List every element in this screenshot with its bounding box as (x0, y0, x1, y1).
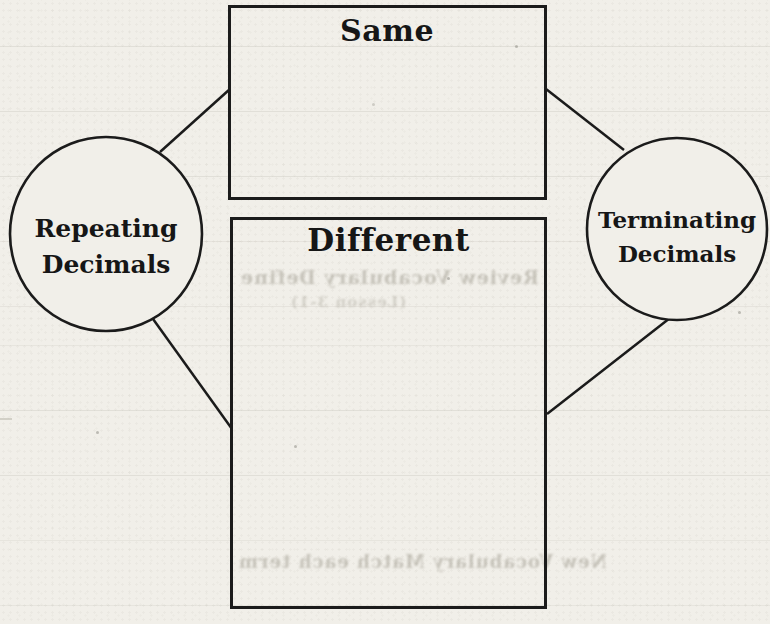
same-box-label: Same (229, 14, 545, 47)
scanned-worksheet-page: Review Vocabulary Define (Lesson 3-1) Ne… (0, 0, 770, 624)
terminating-decimals-label: Terminating Decimals (584, 203, 770, 271)
connector-left-circle-to-same-box (160, 89, 230, 152)
connector-left-circle-to-different-box (148, 312, 232, 429)
terminating-decimals-label-line1: Terminating (584, 203, 770, 237)
repeating-decimals-label-line2: Decimals (11, 247, 201, 283)
different-box (232, 219, 546, 608)
connector-right-circle-to-different-box (547, 318, 670, 414)
connector-right-circle-to-same-box (546, 89, 624, 150)
repeating-decimals-label-line1: Repeating (11, 211, 201, 247)
repeating-decimals-label: Repeating Decimals (11, 211, 201, 283)
terminating-decimals-label-line2: Decimals (584, 237, 770, 271)
different-box-label: Different (231, 223, 546, 257)
compare-contrast-diagram (0, 0, 770, 624)
